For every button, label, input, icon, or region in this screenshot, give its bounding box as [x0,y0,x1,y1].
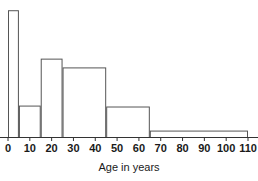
x-axis-tick-label: 30 [67,142,79,154]
histogram-figure: 0102030405060708090100110 Age in years [0,0,258,181]
x-axis-tick-label: 60 [133,142,145,154]
x-axis-tick-label: 20 [46,142,58,154]
x-axis-tick-label: 80 [176,142,188,154]
x-axis-title: Age in years [0,161,258,174]
x-axis-tick-label: 90 [198,142,210,154]
x-axis-tick-label: 10 [24,142,36,154]
histogram-bar [19,106,40,137]
x-axis [0,138,258,142]
x-axis-tick-label: 50 [111,142,123,154]
x-axis-tick-label: 0 [5,142,11,154]
histogram-bar [107,107,150,137]
x-axis-tick-label: 70 [155,142,167,154]
histogram-bars [9,11,248,138]
histogram-bar [9,11,19,138]
histogram-bar [63,68,106,138]
histogram-bar [41,59,62,137]
x-axis-tick-label: 100 [217,142,235,154]
x-axis-ticks [8,138,248,142]
x-axis-tick-label: 40 [89,142,101,154]
x-axis-tick-label: 110 [239,142,257,154]
histogram-bar [150,131,247,137]
